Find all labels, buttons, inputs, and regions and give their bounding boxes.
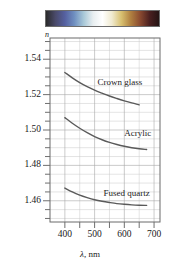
dispersion-chart-figure: n 1.461.481.501.521.54 400500600700 Crow… bbox=[0, 0, 180, 273]
y-tick-label: 1.52 bbox=[0, 90, 41, 100]
x-tick-label: 500 bbox=[80, 230, 110, 240]
y-tick-label: 1.48 bbox=[0, 160, 41, 170]
y-tick-label: 1.50 bbox=[0, 125, 41, 135]
series-label-fused-quartz: Fused quartz bbox=[104, 189, 150, 198]
x-tick-label: 600 bbox=[109, 230, 139, 240]
x-axis-label: λ, nm bbox=[0, 249, 180, 259]
series-label-crown-glass: Crown glass bbox=[98, 78, 143, 87]
x-tick-label: 400 bbox=[50, 230, 80, 240]
x-axis-unit: , nm bbox=[84, 249, 100, 259]
y-tick-label: 1.54 bbox=[0, 54, 41, 64]
series-label-acrylic: Acrylic bbox=[124, 129, 151, 138]
x-tick-label: 700 bbox=[139, 230, 169, 240]
y-tick-label: 1.46 bbox=[0, 196, 41, 206]
